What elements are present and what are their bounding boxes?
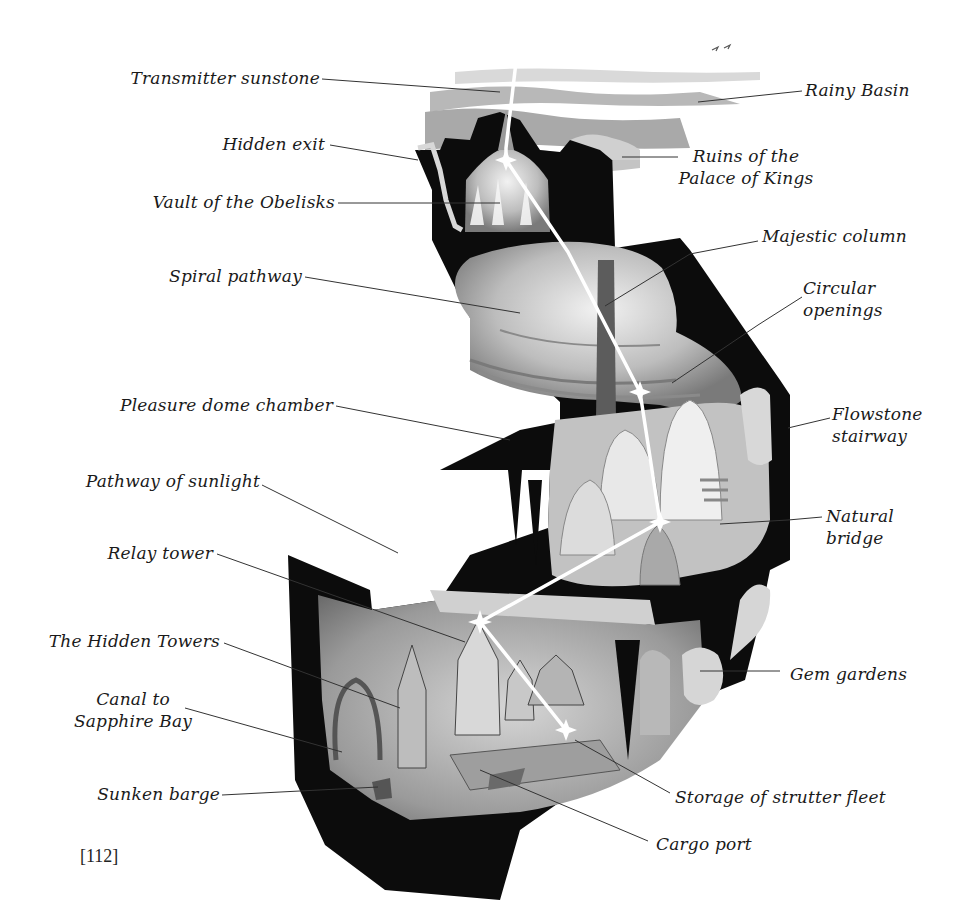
label-cargo-port: Cargo port — [656, 833, 752, 855]
label-natural-line1: Natural — [826, 505, 894, 527]
leader-flowstone-stairway — [788, 418, 830, 428]
label-the-hidden-towers: The Hidden Towers — [30, 630, 220, 652]
label-ruins-of-the-palace-of-kings: Ruins of the Palace of Kings — [676, 145, 816, 189]
label-pleasure-dome-chamber: Pleasure dome chamber — [120, 394, 333, 416]
label-vault-of-the-obelisks: Vault of the Obelisks — [140, 191, 335, 213]
label-rainy-basin: Rainy Basin — [805, 79, 910, 101]
leader-hidden-exit — [330, 145, 418, 160]
label-storage-of-strutter-fleet: Storage of strutter fleet — [675, 786, 886, 808]
label-spiral-pathway: Spiral pathway — [140, 265, 302, 287]
label-canal-line1: Canal to — [68, 688, 198, 710]
label-ruins-line1: Ruins of the — [676, 145, 816, 167]
label-transmitter-sunstone: Transmitter sunstone — [110, 67, 320, 89]
leader-pleasure-dome-chamber — [336, 406, 510, 440]
label-natural-line2: bridge — [826, 527, 894, 549]
label-relay-tower: Relay tower — [80, 542, 213, 564]
label-pathway-of-sunlight: Pathway of sunlight — [80, 470, 260, 492]
leader-natural-bridge — [788, 517, 822, 520]
leader-pathway-of-sunlight — [262, 485, 398, 553]
label-sunken-barge: Sunken barge — [80, 783, 220, 805]
label-majestic-column: Majestic column — [762, 225, 907, 247]
page-number: [112] — [80, 846, 118, 867]
label-flowstone-line2: stairway — [832, 425, 923, 447]
label-flowstone-stairway: Flowstone stairway — [832, 403, 923, 447]
leader-majestic-column — [690, 241, 758, 254]
label-circular-openings: Circular openings — [803, 277, 883, 321]
label-ruins-line2: Palace of Kings — [676, 167, 816, 189]
label-canal-line2: Sapphire Bay — [68, 710, 198, 732]
leader-circular-openings — [758, 297, 802, 325]
label-circular-line2: openings — [803, 299, 883, 321]
cave-cutaway-art — [0, 0, 968, 920]
label-gem-gardens: Gem gardens — [790, 663, 907, 685]
label-natural-bridge: Natural bridge — [826, 505, 894, 549]
label-hidden-exit: Hidden exit — [170, 133, 325, 155]
label-circular-line1: Circular — [803, 277, 883, 299]
label-canal-to-sapphire-bay: Canal to Sapphire Bay — [68, 688, 198, 732]
label-flowstone-line1: Flowstone — [832, 403, 923, 425]
cutaway-illustration: Transmitter sunstone Hidden exit Vault o… — [0, 0, 968, 920]
